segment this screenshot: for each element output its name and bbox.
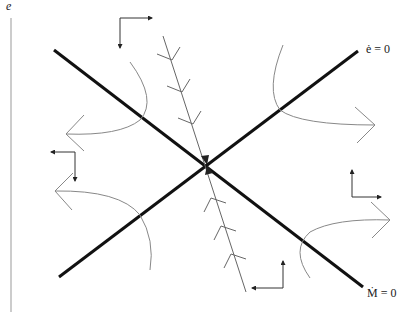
phase-diagram (0, 0, 406, 312)
e-dot-zero-locus (59, 51, 358, 277)
